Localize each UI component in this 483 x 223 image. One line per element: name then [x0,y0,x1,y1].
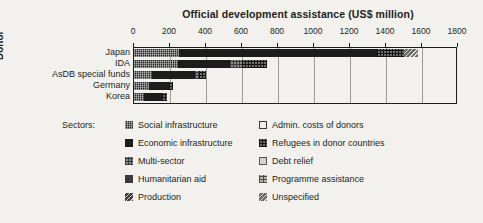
legend-item-admin-costs[interactable]: Admin. costs of donors [259,118,364,131]
legend-label: Social infrastructure [138,120,218,130]
bar-japan [134,49,456,57]
plot-area [133,47,457,104]
bar-germany [134,82,456,90]
chart-root: Official development assistance (US$ mil… [0,0,483,223]
x-tick-1800: 1800 [448,26,467,36]
legend-item-multi-sector[interactable]: Multi-sector [125,154,185,167]
bar-segment-economic [152,71,195,79]
chart-legend: Sectors: Social infrastructure Economic … [0,116,483,216]
bar-segment-economic [178,60,230,68]
y-axis-categories: Japan IDA AsDB special funds Germany Kor… [0,47,130,104]
bar-segment-refugees [169,82,173,90]
legend-label: Multi-sector [138,156,185,166]
y-cat-asdb: AsDB special funds [0,70,130,79]
bar-segment-economic [179,49,377,57]
bar-segment-refugees [242,60,267,68]
legend-label: Unspecified [272,192,319,202]
legend-item-programme-assistance[interactable]: Programme assistance [259,172,364,185]
bar-asdb [134,71,456,79]
x-tick-200: 200 [162,26,176,36]
x-tick-1000: 1000 [304,26,323,36]
bar-segment-multi [230,60,242,68]
bar-segment-unspecified [404,49,418,57]
multi-sector-swatch [125,157,133,165]
bar-segment-social [134,82,149,90]
legend-item-economic-infrastructure[interactable]: Economic infrastructure [125,136,233,149]
x-tick-1600: 1600 [412,26,431,36]
economic-infrastructure-swatch [125,139,133,147]
legend-item-unspecified[interactable]: Unspecified [259,190,319,203]
humanitarian-aid-swatch [125,175,133,183]
x-tick-1200: 1200 [340,26,359,36]
bar-segment-economic [144,93,162,101]
x-tick-800: 800 [270,26,284,36]
chart-title: Official development assistance (US$ mil… [133,8,463,20]
x-tick-0: 0 [131,26,136,36]
bar-segment-social [134,93,144,101]
bar-segment-social [134,49,179,57]
social-infrastructure-swatch [125,121,133,129]
legend-item-debt-relief[interactable]: Debt relief [259,154,313,167]
production-swatch [125,193,133,201]
legend-label: Economic infrastructure [138,138,233,148]
bar-korea [134,93,456,101]
legend-label: Refugees in donor countries [272,138,385,148]
bar-ida [134,60,456,68]
x-axis-tick-labels: 0 200 400 600 800 1000 1200 1400 1600 18… [0,26,483,38]
x-tick-600: 600 [234,26,248,36]
legend-label: Programme assistance [272,174,364,184]
legend-label: Debt relief [272,156,313,166]
y-cat-ida: IDA [0,59,130,68]
y-cat-germany: Germany [0,81,130,90]
y-cat-korea: Korea [0,92,130,101]
legend-label: Production [138,192,181,202]
bar-segment-social [134,71,152,79]
unspecified-swatch [259,193,267,201]
bar-segment-refugees [162,93,167,101]
programme-assistance-swatch [259,175,267,183]
legend-item-production[interactable]: Production [125,190,181,203]
y-cat-japan: Japan [0,48,130,57]
refugees-swatch [259,139,267,147]
legend-title: Sectors: [62,120,95,130]
bar-segment-economic [149,82,169,90]
bar-segment-refugees [377,49,404,57]
x-tick-1400: 1400 [376,26,395,36]
debt-relief-swatch [259,157,267,165]
admin-costs-swatch [259,121,267,129]
legend-label: Humanitarian aid [138,174,206,184]
legend-item-humanitarian-aid[interactable]: Humanitarian aid [125,172,206,185]
legend-item-refugees[interactable]: Refugees in donor countries [259,136,385,149]
legend-label: Admin. costs of donors [272,120,364,130]
bar-segment-social [134,60,178,68]
legend-item-social-infrastructure[interactable]: Social infrastructure [125,118,218,131]
bar-segment-refugees [199,71,206,79]
x-tick-400: 400 [198,26,212,36]
